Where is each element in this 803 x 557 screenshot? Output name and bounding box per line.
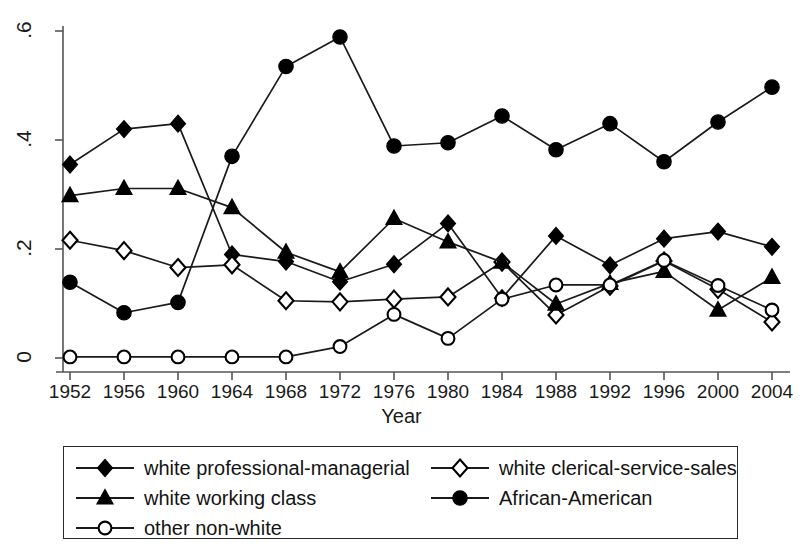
open-diamond-marker [117, 242, 132, 259]
filled-triangle-marker [386, 210, 402, 225]
open-circle-marker [766, 304, 779, 317]
y-tick-label: .6 [12, 13, 36, 47]
x-tick-label: 1956 [96, 381, 152, 403]
open-circle-icon [74, 516, 136, 540]
legend-label: African-American [499, 487, 652, 510]
open-diamond-marker [453, 460, 468, 477]
series-white-working-class [62, 180, 780, 316]
open-diamond-marker [333, 293, 348, 310]
filled-diamond-marker [117, 121, 132, 138]
filled-triangle-marker [764, 269, 780, 284]
series-line [70, 240, 772, 322]
open-circle-marker [550, 279, 563, 292]
x-tick-label: 1952 [42, 381, 98, 403]
filled-circle-marker [549, 143, 563, 157]
legend-label: white working class [144, 487, 316, 510]
filled-triangle-marker [278, 244, 294, 258]
open-circle-marker [334, 340, 347, 353]
legend-label: other non-white [144, 517, 282, 540]
open-circle-marker [658, 254, 671, 267]
filled-circle-marker [711, 115, 725, 129]
x-tick-label: 1992 [582, 381, 638, 403]
legend-entry-african-american: African-American [429, 485, 652, 511]
legend-label: white professional-managerial [144, 457, 410, 480]
filled-diamond-marker [711, 223, 726, 240]
filled-diamond-marker [765, 238, 780, 255]
filled-circle-marker [387, 139, 401, 153]
legend-entry-white-clerical-service-sales: white clerical-service-sales [429, 455, 737, 481]
open-circle-marker [712, 279, 725, 292]
x-tick-label: 1996 [636, 381, 692, 403]
x-axis-title: Year [0, 405, 803, 428]
filled-triangle-marker [170, 180, 186, 195]
legend-entry-other-non-white: other non-white [74, 515, 282, 541]
y-tick-label: 0 [12, 340, 36, 374]
open-circle-marker [280, 351, 293, 364]
filled-diamond-marker [603, 257, 618, 274]
open-circle-marker [226, 351, 239, 364]
filled-circle-marker [603, 116, 617, 130]
legend-entry-white-professional-managerial: white professional-managerial [74, 455, 410, 481]
x-tick-label: 1960 [150, 381, 206, 403]
x-tick-label: 1964 [204, 381, 260, 403]
y-tick-label: .2 [12, 231, 36, 265]
open-circle-marker [604, 279, 617, 292]
chart-figure: 0 .2 .4 .6 19521956196019641968197219761… [0, 0, 803, 557]
filled-circle-marker [657, 155, 671, 169]
filled-circle-marker [495, 109, 509, 123]
open-circle-marker [496, 293, 509, 306]
x-tick-label: 1980 [420, 381, 476, 403]
filled-triangle-marker [97, 490, 113, 505]
filled-circle-marker [453, 491, 467, 505]
filled-circle-marker [441, 136, 455, 150]
filled-diamond-marker [387, 256, 402, 273]
filled-circle-marker [225, 149, 239, 163]
filled-circle-icon [429, 486, 491, 510]
filled-circle-marker [279, 59, 293, 73]
legend: white professional-managerial white cler… [63, 446, 738, 539]
x-tick-label: 1968 [258, 381, 314, 403]
x-tick-label: 2004 [744, 381, 800, 403]
series-other-non-white [64, 254, 779, 363]
filled-circle-marker [171, 295, 185, 309]
open-circle-marker [118, 351, 131, 364]
legend-entry-white-working-class: white working class [74, 485, 316, 511]
x-tick-label: 2000 [690, 381, 746, 403]
x-tick-label: 1984 [474, 381, 530, 403]
open-circle-marker [99, 522, 112, 535]
filled-diamond-marker [657, 230, 672, 247]
legend-label: white clerical-service-sales [499, 457, 737, 480]
open-diamond-marker [171, 259, 186, 276]
filled-diamond-marker [171, 115, 186, 132]
filled-triangle-icon [74, 486, 136, 510]
open-circle-marker [172, 351, 185, 364]
filled-diamond-marker [98, 460, 113, 477]
y-tick-label: .4 [12, 122, 36, 156]
series-line [70, 189, 772, 311]
filled-circle-marker [765, 80, 779, 94]
filled-triangle-marker [710, 302, 726, 317]
open-diamond-marker [387, 291, 402, 308]
open-circle-marker [64, 351, 77, 364]
filled-diamond-marker [63, 156, 78, 173]
x-tick-label: 1988 [528, 381, 584, 403]
open-diamond-marker [63, 232, 78, 249]
filled-triangle-marker [440, 233, 456, 248]
series-white-clerical-service-sales [63, 232, 780, 331]
open-diamond-icon [429, 456, 491, 480]
filled-circle-marker [63, 275, 77, 289]
open-diamond-marker [279, 292, 294, 309]
open-circle-marker [388, 308, 401, 321]
filled-diamond-icon [74, 456, 136, 480]
filled-circle-marker [333, 30, 347, 44]
open-circle-marker [442, 332, 455, 345]
x-tick-label: 1972 [312, 381, 368, 403]
filled-triangle-marker [116, 180, 132, 195]
x-tick-label: 1976 [366, 381, 422, 403]
open-diamond-marker [225, 256, 240, 273]
open-diamond-marker [441, 288, 456, 305]
filled-circle-marker [117, 306, 131, 320]
